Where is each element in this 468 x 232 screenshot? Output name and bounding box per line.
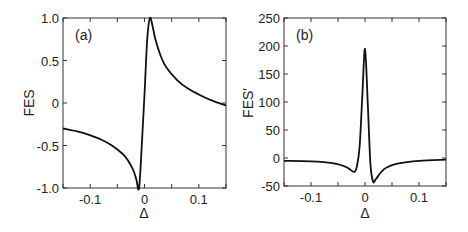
x-tick-label: -0.1 (79, 192, 101, 207)
panel-label-b: (b) (296, 27, 313, 43)
x-tick-label: 0 (361, 190, 368, 205)
y-tick-label: 0 (273, 151, 280, 166)
y-tick-label: -1.0 (37, 181, 59, 196)
x-tick-label: 0.1 (190, 192, 208, 207)
y-tick-label: 250 (258, 11, 280, 26)
y-axis-title-b: FES′ (240, 88, 256, 118)
y-tick-label: 1.0 (41, 11, 59, 26)
y-tick-label: 150 (258, 67, 280, 82)
y-axis-title-a: FES (21, 89, 37, 116)
fes-curve (63, 18, 226, 190)
y-tick-label: 200 (258, 39, 280, 54)
ticks-a: -0.100.11.00.50-0.5-1.0 (37, 11, 226, 207)
panel-a: -0.100.11.00.50-0.5-1.0 (a) FES Δ (21, 11, 226, 221)
x-axis-title-b: Δ (360, 205, 369, 221)
y-tick-label: -0.5 (37, 139, 59, 154)
y-tick-label: 100 (258, 95, 280, 110)
y-tick-label: -50 (261, 179, 280, 194)
ticks-b: -0.100.1250200150100500-50 (258, 11, 446, 205)
x-axis-title-a: Δ (139, 205, 148, 221)
x-tick-label: 0.1 (410, 190, 428, 205)
x-tick-label: -0.1 (300, 190, 322, 205)
fes-derivative-curve (284, 49, 446, 183)
y-tick-label: 0 (52, 96, 59, 111)
y-tick-label: 50 (266, 123, 280, 138)
panel-b: -0.100.1250200150100500-50 (b) FES′ Δ (240, 11, 446, 221)
panel-label-a: (a) (75, 27, 92, 43)
y-tick-label: 0.5 (41, 54, 59, 69)
figure: -0.100.11.00.50-0.5-1.0 (a) FES Δ -0.100… (0, 0, 468, 232)
